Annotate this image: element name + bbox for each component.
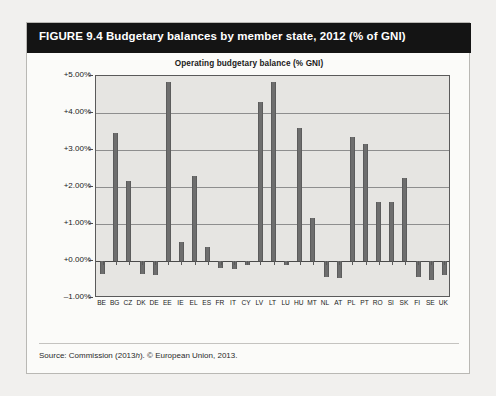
figure-title: FIGURE 9.4 Budgetary balances by member … — [39, 30, 406, 42]
x-tick-label-be: BE — [95, 299, 108, 306]
x-tick-label-uk: UK — [437, 299, 450, 306]
x-tick-label-lv: LV — [253, 299, 266, 306]
y-axis: +5.00%+4.00%+3.00%+2.00%+1.00%+0.00%–1.0… — [27, 75, 91, 297]
page-background: FIGURE 9.4 Budgetary balances by member … — [0, 0, 496, 396]
bar-sk — [402, 178, 407, 261]
x-tick-mark — [142, 261, 143, 265]
x-tick-label-es: ES — [200, 299, 213, 306]
x-tick-mark — [247, 261, 248, 265]
bar-el — [192, 176, 197, 261]
bar-ro — [376, 202, 381, 261]
x-tick-mark — [326, 261, 327, 265]
x-tick-label-sk: SK — [397, 299, 410, 306]
x-tick-label-ee: EE — [161, 299, 174, 306]
y-tick-mark — [89, 75, 93, 76]
bar-pl — [350, 137, 355, 261]
x-tick-mark — [313, 261, 314, 265]
x-tick-label-el: EL — [187, 299, 200, 306]
x-tick-label-fr: FR — [213, 299, 226, 306]
bar-cz — [126, 181, 131, 261]
x-tick-mark — [208, 261, 209, 265]
x-tick-label-ro: RO — [371, 299, 384, 306]
y-tick-mark — [89, 260, 93, 261]
y-tick-label: +0.00% — [31, 255, 91, 264]
source-divider — [39, 343, 459, 344]
x-tick-label-de: DE — [148, 299, 161, 306]
x-tick-mark — [103, 261, 104, 265]
x-tick-mark — [168, 261, 169, 265]
x-tick-label-si: SI — [384, 299, 397, 306]
bar-si — [389, 202, 394, 261]
x-tick-mark — [352, 261, 353, 265]
x-tick-label-dk: DK — [134, 299, 147, 306]
x-tick-mark — [339, 261, 340, 265]
x-tick-label-lu: LU — [279, 299, 292, 306]
chart-title: Operating budgetary balance (% GNI) — [27, 59, 471, 68]
x-tick-label-pl: PL — [345, 299, 358, 306]
x-tick-mark — [287, 261, 288, 265]
figure-title-banner: FIGURE 9.4 Budgetary balances by member … — [27, 23, 471, 53]
chart-region: Operating budgetary balance (% GNI) +5.0… — [27, 53, 471, 343]
x-tick-label-pt: PT — [358, 299, 371, 306]
x-tick-label-cy: CY — [240, 299, 253, 306]
x-tick-mark — [431, 261, 432, 265]
bar-lt — [271, 82, 276, 261]
x-tick-mark — [379, 261, 380, 265]
x-tick-label-hu: HU — [292, 299, 305, 306]
y-tick-mark — [89, 149, 93, 150]
x-tick-mark — [129, 261, 130, 265]
x-tick-label-lt: LT — [266, 299, 279, 306]
x-tick-mark — [274, 261, 275, 265]
y-tick-label: +1.00% — [31, 218, 91, 227]
x-tick-label-ie: IE — [174, 299, 187, 306]
x-tick-mark — [195, 261, 196, 265]
x-tick-mark — [366, 261, 367, 265]
x-tick-mark — [221, 261, 222, 265]
bar-lv — [258, 102, 263, 261]
x-tick-mark — [260, 261, 261, 265]
x-tick-label-bg: BG — [108, 299, 121, 306]
y-tick-mark — [89, 297, 93, 298]
x-tick-mark — [300, 261, 301, 265]
source-note: Source: Commission (2013h). © European U… — [39, 351, 237, 360]
y-tick-mark — [89, 112, 93, 113]
zero-axis-line — [96, 261, 449, 262]
x-tick-mark — [155, 261, 156, 265]
y-tick-label: +4.00% — [31, 107, 91, 116]
bar-es — [205, 247, 210, 261]
x-tick-mark — [405, 261, 406, 265]
y-tick-label: –1.00% — [31, 292, 91, 301]
x-tick-mark — [418, 261, 419, 265]
x-tick-mark — [392, 261, 393, 265]
x-tick-mark — [116, 261, 117, 265]
x-tick-label-se: SE — [424, 299, 437, 306]
plot-area — [95, 75, 450, 297]
bar-hu — [297, 128, 302, 261]
bar-ie — [179, 242, 184, 261]
y-tick-label: +5.00% — [31, 70, 91, 79]
y-tick-mark — [89, 223, 93, 224]
x-tick-label-cz: CZ — [121, 299, 134, 306]
x-tick-mark — [234, 261, 235, 265]
figure-card: FIGURE 9.4 Budgetary balances by member … — [26, 22, 470, 374]
x-tick-label-nl: NL — [319, 299, 332, 306]
bar-mt — [310, 218, 315, 261]
x-tick-label-it: IT — [226, 299, 239, 306]
bar-ee — [166, 82, 171, 261]
bar-pt — [363, 144, 368, 261]
bar-bg — [113, 133, 118, 261]
x-tick-label-fi: FI — [411, 299, 424, 306]
x-tick-label-at: AT — [332, 299, 345, 306]
x-tick-mark — [181, 261, 182, 265]
y-tick-label: +3.00% — [31, 144, 91, 153]
y-tick-mark — [89, 186, 93, 187]
y-tick-label: +2.00% — [31, 181, 91, 190]
x-axis: BEBGCZDKDEEEIEELESFRITCYLVLTLUHUMTNLATPL… — [95, 299, 450, 313]
x-tick-mark — [444, 261, 445, 265]
x-tick-label-mt: MT — [305, 299, 318, 306]
